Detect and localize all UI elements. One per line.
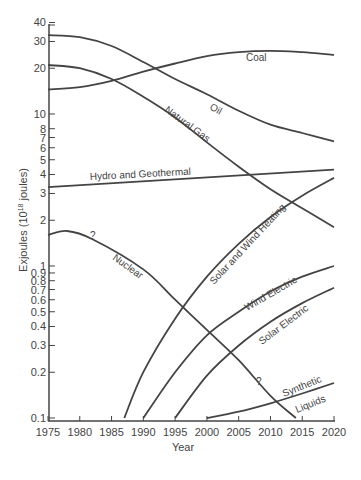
y-tick-label: 40: [34, 16, 46, 28]
y-tick-label: 4: [40, 168, 46, 180]
x-tick-label: 2020: [322, 426, 346, 438]
liquids-label: Liquids: [294, 393, 328, 415]
wind-electric-label: Wind Electric: [243, 274, 299, 313]
y-axis-title: Exjoules (1018 joules): [17, 168, 29, 272]
y-tick-label: 0.2: [31, 366, 46, 378]
y-tick-label: 2: [40, 214, 46, 226]
wind-electric-curve: [143, 266, 334, 418]
y-tick-label: 1: [40, 260, 46, 272]
y-tick-label: 0.1: [31, 412, 46, 424]
x-tick-label: 1980: [68, 426, 92, 438]
x-axis-title: Year: [172, 441, 195, 453]
coal-curve: [48, 51, 334, 90]
y-axis-title-main: Exjoules (10: [17, 211, 29, 272]
y-tick-label: 0.4: [31, 320, 46, 332]
solar-wind-heating-label: Solar and Wind Heating: [207, 202, 287, 287]
curves: [48, 35, 334, 418]
y-tick-label: 5: [40, 154, 46, 166]
x-tick-label: 1990: [131, 426, 155, 438]
x-tick-label: 2005: [226, 426, 250, 438]
nuclear-question-1: ?: [90, 230, 96, 241]
x-tick-label: 2015: [290, 426, 314, 438]
coal-label: Coal: [246, 52, 267, 63]
y-tick-label: 0.5: [31, 306, 46, 318]
y-tick-label: 8: [40, 123, 46, 135]
x-tick-label: 1985: [99, 426, 123, 438]
y-tick-label: 30: [34, 35, 46, 47]
oil-label: Oil: [208, 101, 224, 116]
x-ticks: 1975198019851990199520002005201020152020: [36, 416, 347, 438]
y-tick-label: 10: [34, 108, 46, 120]
y-tick-label: 3: [40, 187, 46, 199]
y-ticks: 0.10.20.30.40.50.60.70.80.91234567810203…: [31, 16, 55, 424]
solar-electric-label: Solar Electric: [257, 302, 311, 346]
x-tick-label: 1975: [36, 426, 60, 438]
y-tick-label: 0.3: [31, 339, 46, 351]
y-axis-title-sup: 18: [17, 203, 24, 211]
nuclear-question-2: ?: [256, 376, 262, 387]
natural-gas-label: Natural Gas: [163, 104, 213, 144]
energy-chart: 0.10.20.30.40.50.60.70.80.91234567810203…: [0, 0, 361, 480]
x-tick-label: 1995: [163, 426, 187, 438]
axes: [48, 24, 335, 421]
x-tick-label: 2010: [258, 426, 282, 438]
x-tick-label: 2000: [195, 426, 219, 438]
y-tick-label: 20: [34, 62, 46, 74]
y-axis-title-tail: joules): [17, 168, 29, 203]
